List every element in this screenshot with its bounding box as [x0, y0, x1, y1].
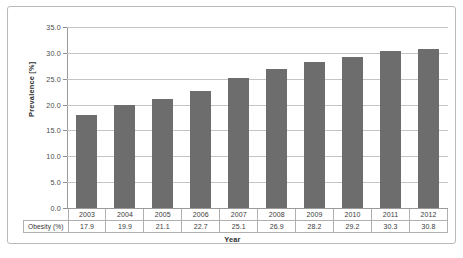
- table-cell-obesity: 30.8: [409, 221, 447, 233]
- chart-figure-frame: Prevalence [%] 0.05.010.015.020.025.030.…: [7, 6, 456, 244]
- table-cell-obesity: 30.3: [372, 221, 410, 233]
- table-row-years: 2003200420052006200720082009201020112012: [24, 209, 448, 221]
- table-cell-obesity: 17.9: [68, 221, 106, 233]
- table-cell-year: 2004: [106, 209, 144, 221]
- table-cell-year: 2003: [68, 209, 106, 221]
- bar-2010: [342, 57, 363, 208]
- table-cell-year: 2006: [182, 209, 220, 221]
- table-cell-year: 2010: [334, 209, 372, 221]
- table-row-header: Obesity (%): [24, 221, 69, 233]
- table-row-obesity: Obesity (%) 17.919.921.122.725.126.928.2…: [24, 221, 448, 233]
- y-axis-tick-label: 30.0: [46, 48, 61, 57]
- bar-slot: [296, 27, 334, 208]
- year-row-header-spacer: [24, 209, 69, 221]
- data-table: 2003200420052006200720082009201020112012…: [23, 209, 448, 233]
- y-axis-tick-label: 5.0: [50, 178, 61, 187]
- bar-slot: [181, 27, 219, 208]
- bar-2004: [114, 105, 135, 208]
- bar-slot: [219, 27, 257, 208]
- y-axis-title: Prevalence [%]: [27, 62, 36, 117]
- y-axis-tick-label: 15.0: [46, 126, 61, 135]
- bar-slot: [372, 27, 410, 208]
- bar-2006: [190, 91, 211, 208]
- table-cell-year: 2005: [144, 209, 182, 221]
- table-cell-obesity: 29.2: [334, 221, 372, 233]
- table-cell-year: 2012: [409, 209, 447, 221]
- bar-slot: [67, 27, 105, 208]
- table-cell-year: 2009: [296, 209, 334, 221]
- table-cell-obesity: 22.7: [182, 221, 220, 233]
- bar-2003: [76, 115, 97, 208]
- bar-slot: [257, 27, 295, 208]
- table-cell-obesity: 26.9: [258, 221, 296, 233]
- table-cell-year: 2011: [372, 209, 410, 221]
- table-cell-year: 2007: [220, 209, 258, 221]
- table-cell-obesity: 19.9: [106, 221, 144, 233]
- bar-2005: [152, 99, 173, 208]
- bar-2011: [380, 51, 401, 208]
- y-axis-tick-label: 20.0: [46, 100, 61, 109]
- y-axis-tick-label: 10.0: [46, 152, 61, 161]
- bar-slot: [410, 27, 448, 208]
- table-cell-obesity: 28.2: [296, 221, 334, 233]
- bar-2007: [228, 78, 249, 208]
- plot-area: 0.05.010.015.020.025.030.035.0: [67, 27, 448, 208]
- bar-slot: [143, 27, 181, 208]
- y-axis-tick-label: 35.0: [46, 23, 61, 32]
- bar-slot: [105, 27, 143, 208]
- bar-series: [67, 27, 448, 208]
- bar-2009: [304, 62, 325, 208]
- table-cell-obesity: 21.1: [144, 221, 182, 233]
- y-axis-tick-label: 25.0: [46, 74, 61, 83]
- table-cell-year: 2008: [258, 209, 296, 221]
- x-axis-title: Year: [8, 235, 457, 244]
- bar-2012: [418, 49, 439, 208]
- bar-slot: [334, 27, 372, 208]
- table-cell-obesity: 25.1: [220, 221, 258, 233]
- bar-2008: [266, 69, 287, 208]
